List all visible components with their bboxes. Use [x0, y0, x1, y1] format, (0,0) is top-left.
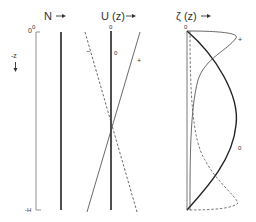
- panel-zeta: ζ (z) 0 + 0: [176, 10, 242, 210]
- panel-u-title: U (z): [101, 10, 125, 22]
- panel-zeta-title: ζ (z): [176, 10, 197, 22]
- panel-n-title: N: [44, 10, 52, 22]
- panel-n: N: [44, 10, 66, 210]
- u-positive-profile: [87, 32, 140, 212]
- depth-direction-label: -z: [11, 52, 17, 59]
- zeta-zero-curve: [187, 31, 236, 210]
- panel-u: U (z) 0 − 0 +: [85, 10, 141, 212]
- u-negative-label: −: [86, 48, 90, 55]
- right-arrow-icon: [56, 14, 66, 18]
- depth-axis-top-label-sup: 0: [32, 24, 36, 30]
- right-arrow-icon: [126, 14, 136, 18]
- zeta-zero-label: 0: [238, 145, 242, 151]
- zeta-positive-label: +: [238, 36, 242, 43]
- depth-axis: 0 0 -H -z: [11, 24, 41, 213]
- u-top-zero-label: 0: [109, 24, 113, 30]
- down-arrow-icon: [14, 62, 18, 72]
- u-positive-label: +: [137, 57, 141, 64]
- u-zero-label: 0: [114, 50, 118, 56]
- depth-axis-bottom-label: -H: [25, 207, 31, 213]
- stratified-flow-diagram: 0 0 -H -z N U (z) 0 − 0 + ζ (z): [0, 0, 256, 222]
- right-arrow-icon: [201, 14, 211, 18]
- zeta-top-zero-label: 0: [184, 24, 188, 30]
